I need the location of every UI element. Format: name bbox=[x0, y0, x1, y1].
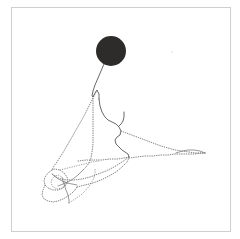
trace-center-vertical-dotted bbox=[83, 96, 93, 170]
trace-knot-outer-loop bbox=[44, 169, 68, 190]
trace-group bbox=[42, 64, 205, 203]
trace-left-long-diagonal-dotted bbox=[52, 92, 96, 170]
trace-upper-solid-ridge bbox=[99, 99, 129, 157]
trace-knot-inner-loop bbox=[51, 175, 65, 189]
trace-mid-horizontal-dotted bbox=[78, 157, 129, 161]
filled-circle-marker bbox=[96, 36, 126, 66]
trace-lower-fan-dotted bbox=[52, 157, 129, 180]
trace-right-tail-lower-dotted bbox=[129, 153, 205, 158]
stray-speck bbox=[171, 51, 173, 53]
figure-canvas bbox=[0, 0, 240, 239]
trace-branch-stub-vertical bbox=[119, 112, 124, 126]
trace-tether-from-marker bbox=[92, 64, 104, 99]
figure-root bbox=[0, 0, 240, 239]
trace-inner-cross-dotted bbox=[60, 161, 99, 170]
